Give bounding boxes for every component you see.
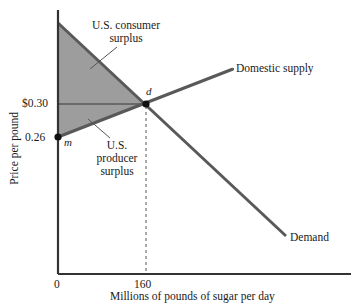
equilibrium-point-d-marker xyxy=(142,100,149,107)
x-tick-label-equilibrium-quantity: 160 xyxy=(134,278,151,291)
domestic-supply-label: Domestic supply xyxy=(236,62,314,75)
economics-surplus-chart: Price per pound Millions of pounds of su… xyxy=(0,0,360,308)
producer-surplus-label: U.S. producer surplus xyxy=(85,139,149,178)
demand-curve xyxy=(58,23,286,236)
x-axis-title: Millions of pounds of sugar per day xyxy=(110,290,275,303)
y-tick-label-price-low: 0.26 xyxy=(25,131,45,144)
producer-surplus-label-line3: surplus xyxy=(85,165,149,178)
consumer-surplus-label-line2: surplus xyxy=(78,32,174,45)
y-axis-title: Price per pound xyxy=(8,96,21,200)
chart-plot-area xyxy=(0,0,360,308)
point-d-label: d xyxy=(146,85,152,97)
consumer-surplus-label-line1: U.S. consumer xyxy=(78,19,174,32)
producer-surplus-label-line1: U.S. xyxy=(85,139,149,152)
consumer-surplus-label: U.S. consumer surplus xyxy=(78,19,174,45)
point-m-marker xyxy=(54,133,61,140)
point-m-label: m xyxy=(64,136,72,148)
producer-surplus-label-line2: producer xyxy=(85,152,149,165)
demand-label: Demand xyxy=(290,231,329,244)
y-tick-label-price-high: $0.30 xyxy=(22,97,48,110)
x-tick-label-zero: 0 xyxy=(54,278,60,291)
